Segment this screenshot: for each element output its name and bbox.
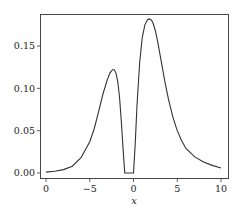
- y-tick-label: 0.15: [14, 40, 35, 51]
- x-tick-label: −5: [83, 183, 97, 194]
- y-tick-label: 0.10: [14, 83, 35, 94]
- x-tick-label: 10: [215, 183, 227, 194]
- x-tick-label: 5: [174, 183, 180, 194]
- x-axis-label: x: [131, 195, 137, 206]
- x-axis-ticks: 0−50510: [43, 179, 227, 195]
- x-tick-label: 0: [130, 183, 136, 194]
- line-chart: 0−50510 0.000.050.100.15 x: [0, 0, 241, 217]
- y-tick-label: 0.00: [14, 167, 35, 178]
- y-axis-ticks: 0.000.050.100.15: [14, 40, 41, 178]
- y-tick-label: 0.05: [14, 125, 35, 136]
- data-line: [46, 19, 221, 173]
- x-tick-label: 0: [43, 183, 49, 194]
